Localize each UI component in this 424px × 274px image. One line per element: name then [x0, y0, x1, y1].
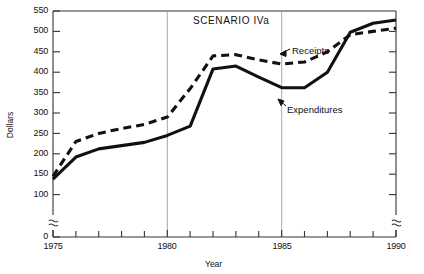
y-tick-label-200: 200	[14, 148, 48, 158]
y-tick-label-350: 350	[14, 87, 48, 97]
axis-break-left-icon	[49, 220, 58, 226]
x-tick-label-1975: 1975	[33, 241, 73, 251]
series-line-receipts	[53, 28, 396, 176]
x-tick-label-1985: 1985	[262, 241, 302, 251]
plot-area	[0, 0, 424, 274]
y-axis-ticks-right	[389, 31, 396, 194]
y-tick-label-550: 550	[14, 5, 48, 15]
y-tick-label-250: 250	[14, 128, 48, 138]
x-tick-label-1980: 1980	[147, 241, 187, 251]
y-tick-label-450: 450	[14, 46, 48, 56]
x-tick-label-1990: 1990	[376, 241, 416, 251]
axis-break-right-icon	[392, 220, 401, 226]
y-tick-label-300: 300	[14, 107, 48, 117]
y-tick-label-150: 150	[14, 168, 48, 178]
chart-figure: Dollars SCENARIO IVa Year Receipts Expen…	[0, 0, 424, 274]
y-tick-label-400: 400	[14, 66, 48, 76]
y-tick-label-100: 100	[14, 189, 48, 199]
x-axis-ticks	[53, 230, 396, 237]
y-tick-label-500: 500	[14, 25, 48, 35]
y-axis-ticks	[53, 11, 60, 237]
y-tick-label-0: 0	[14, 231, 48, 241]
gridlines-vertical	[167, 11, 281, 237]
series-line-expenditures	[53, 20, 396, 179]
